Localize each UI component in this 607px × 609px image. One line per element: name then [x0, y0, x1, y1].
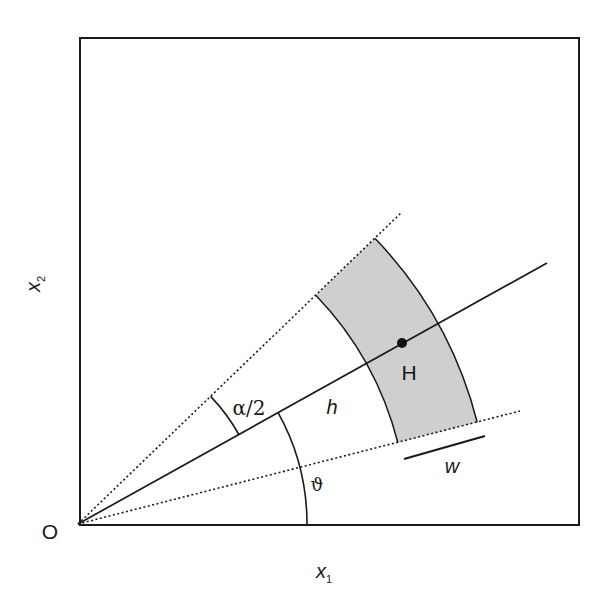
point-h-label: H	[401, 361, 416, 384]
origin-label: O	[42, 520, 58, 543]
width-w-label: w	[445, 455, 461, 477]
half-angle-label: α/2	[233, 396, 266, 420]
distance-h-label: h	[326, 396, 337, 418]
diagram-canvas: O x1 x2 α/2 ϑ h H w	[0, 0, 607, 609]
x1-axis-label: x1	[315, 560, 332, 585]
shaded-band	[316, 238, 477, 442]
upper-boundary-dotted-line	[78, 212, 402, 524]
theta-label: ϑ	[311, 474, 324, 495]
theta-angle-arc	[278, 413, 307, 524]
point-h-dot	[397, 338, 407, 348]
plot-frame	[80, 38, 579, 525]
x2-axis-label: x2	[22, 276, 47, 293]
